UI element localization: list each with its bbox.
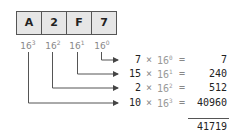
coefficient: 7 (125, 54, 141, 65)
power-base: 16 (157, 98, 169, 109)
power: 163 (157, 97, 173, 109)
power: 160 (157, 54, 173, 66)
power-base: 16 (157, 69, 169, 80)
sum-total: 41719 (183, 121, 227, 132)
power-base: 16 (157, 55, 169, 66)
connector-arrows (0, 0, 242, 134)
power-exp: 3 (169, 97, 173, 104)
result: 7 (183, 54, 227, 65)
coefficient: 15 (125, 68, 141, 79)
power-exp: 1 (169, 68, 173, 75)
power-exp: 2 (169, 82, 173, 89)
times-sign: × (146, 97, 152, 108)
result: 240 (183, 68, 227, 79)
power: 162 (157, 82, 173, 94)
power-base: 16 (157, 83, 169, 94)
times-sign: × (146, 54, 152, 65)
result: 512 (183, 82, 227, 93)
times-sign: × (146, 68, 152, 79)
result: 40960 (183, 97, 227, 108)
coefficient: 10 (125, 97, 141, 108)
power-exp: 0 (169, 54, 173, 61)
power: 161 (157, 68, 173, 80)
coefficient: 2 (125, 82, 141, 93)
times-sign: × (146, 82, 152, 93)
